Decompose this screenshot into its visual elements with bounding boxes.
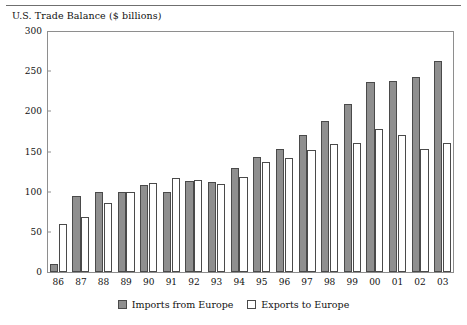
bar-group <box>431 31 454 272</box>
bar-exports <box>398 135 406 272</box>
bar-imports <box>50 264 58 272</box>
bar-exports <box>262 162 270 272</box>
plot-area <box>47 31 454 272</box>
bar-imports <box>389 81 397 272</box>
bar-group <box>296 31 319 272</box>
y-axis-tick-label: 300 <box>2 26 42 36</box>
bar-exports <box>172 178 180 272</box>
x-axis-tick-label: 02 <box>414 277 425 287</box>
bar-exports <box>285 158 293 272</box>
x-axis-tick-label: 03 <box>437 277 448 287</box>
y-axis-tick-label: 100 <box>2 187 42 197</box>
bar-exports <box>81 217 89 272</box>
bar-group <box>386 31 409 272</box>
x-axis-tick-label: 91 <box>166 277 177 287</box>
bar-group <box>92 31 115 272</box>
bar-group <box>318 31 341 272</box>
x-axis-tick-label: 92 <box>188 277 199 287</box>
bar-exports <box>59 224 67 272</box>
bar-imports <box>253 157 261 272</box>
bar-imports <box>185 181 193 272</box>
y-axis-tick-mark <box>47 151 51 152</box>
bar-exports <box>443 143 451 272</box>
y-axis-tick-mark <box>47 71 51 72</box>
bar-imports <box>95 192 103 272</box>
x-axis-tick-label: 86 <box>53 277 64 287</box>
x-axis-tick-label: 93 <box>211 277 222 287</box>
y-axis-labels: 050100150200250300 <box>0 31 42 272</box>
x-axis-tick-label: 88 <box>98 277 109 287</box>
x-axis-tick-label: 89 <box>120 277 131 287</box>
bar-group <box>364 31 387 272</box>
bar-group <box>409 31 432 272</box>
y-axis-tick-label: 150 <box>2 147 42 157</box>
x-axis-tick-label: 00 <box>369 277 380 287</box>
x-axis-tick-label: 95 <box>256 277 267 287</box>
bar-imports <box>208 182 216 272</box>
bar-imports <box>163 192 171 272</box>
legend-swatch-imports-icon <box>118 300 127 309</box>
bar-imports <box>72 196 80 272</box>
y-axis-tick-label: 0 <box>2 267 42 277</box>
figure-top-rule <box>6 5 461 6</box>
bar-group <box>70 31 93 272</box>
legend-item: Imports from Europe <box>118 299 234 310</box>
legend-item: Exports to Europe <box>247 299 349 310</box>
y-axis-tick-label: 50 <box>2 227 42 237</box>
bar-exports <box>126 192 134 272</box>
bar-group <box>341 31 364 272</box>
bar-group <box>205 31 228 272</box>
legend-swatch-exports-icon <box>247 300 256 309</box>
bar-imports <box>299 135 307 272</box>
bar-imports <box>434 61 442 272</box>
y-axis-tick-label: 200 <box>2 106 42 116</box>
x-axis-tick-label: 98 <box>324 277 335 287</box>
x-axis-tick-label: 99 <box>347 277 358 287</box>
chart-legend: Imports from EuropeExports to Europe <box>0 299 467 310</box>
y-axis-tick-mark <box>47 191 51 192</box>
bar-exports <box>239 177 247 272</box>
legend-label: Exports to Europe <box>261 299 349 310</box>
chart-title: U.S. Trade Balance ($ billions) <box>12 10 162 21</box>
bar-group <box>115 31 138 272</box>
bar-exports <box>307 150 315 272</box>
legend-label: Imports from Europe <box>132 299 234 310</box>
x-axis-tick-label: 94 <box>233 277 244 287</box>
x-axis-labels: 868788899091929394959697989900010203 <box>47 277 454 291</box>
bar-exports <box>149 183 157 272</box>
bar-group <box>228 31 251 272</box>
bar-exports <box>330 144 338 272</box>
bar-group <box>137 31 160 272</box>
chart-figure: U.S. Trade Balance ($ billions) 05010015… <box>0 0 467 325</box>
y-axis-tick-label: 250 <box>2 66 42 76</box>
bar-group <box>273 31 296 272</box>
bar-exports <box>217 184 225 272</box>
y-axis-tick-mark <box>47 111 51 112</box>
bar-imports <box>140 185 148 272</box>
y-axis-tick-mark <box>47 231 51 232</box>
x-axis-tick-label: 90 <box>143 277 154 287</box>
bar-imports <box>344 104 352 272</box>
bar-exports <box>104 203 112 272</box>
bar-group <box>251 31 274 272</box>
bar-exports <box>194 180 202 272</box>
bar-imports <box>118 192 126 272</box>
x-axis-tick-label: 96 <box>279 277 290 287</box>
bar-group <box>160 31 183 272</box>
x-axis-tick-label: 87 <box>75 277 86 287</box>
bar-exports <box>420 149 428 272</box>
bar-imports <box>321 121 329 272</box>
bar-exports <box>375 129 383 272</box>
bar-imports <box>276 149 284 272</box>
bar-exports <box>353 143 361 272</box>
x-axis-tick-label: 97 <box>301 277 312 287</box>
bar-group <box>183 31 206 272</box>
bar-imports <box>412 77 420 272</box>
bar-imports <box>366 82 374 272</box>
bar-imports <box>231 168 239 272</box>
x-axis-tick-label: 01 <box>392 277 403 287</box>
